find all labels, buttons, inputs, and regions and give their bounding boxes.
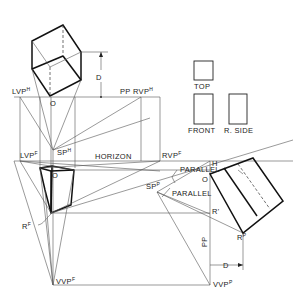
label-o-top: O	[50, 99, 56, 108]
label-r-f: RF	[22, 221, 31, 231]
label-lvp-f: LVPF	[20, 150, 38, 160]
label-o-right: O	[202, 175, 208, 184]
right-side-view	[157, 158, 283, 285]
view-legend	[194, 61, 247, 124]
label-r-prime: R'	[212, 207, 220, 216]
label-view-front: FRONT	[188, 126, 215, 135]
label-horizon: HORIZON	[95, 152, 132, 161]
label-parallel-mid: PARALLEL	[172, 189, 212, 198]
label-pp-right: PP	[200, 236, 209, 247]
parallel-leader-top-right	[238, 170, 243, 174]
label-vvp-f: VVPF	[56, 276, 75, 286]
rf-leader	[38, 214, 51, 225]
label-d-top: D	[96, 73, 102, 82]
label-d-right: D	[223, 261, 229, 270]
label-r-p: RP	[237, 232, 247, 242]
label-view-rside: R. SIDE	[224, 126, 253, 135]
label-rvp-h: RVPH	[133, 86, 153, 96]
label-sp-h: SPH	[57, 147, 72, 157]
label-pp-top: PP	[120, 87, 131, 96]
dimension-d-top	[81, 52, 108, 98]
plan-construction-lines	[20, 69, 150, 285]
perspective-drawing: LVPH O D PP RVPH SPH HORIZON LVPF RVPF O…	[0, 0, 293, 298]
label-h-right: H	[212, 159, 218, 168]
label-lvp-h: LVPH	[12, 86, 31, 96]
label-o-front: O	[52, 171, 58, 180]
plan-view-cube	[32, 25, 81, 96]
label-view-top: TOP	[194, 82, 210, 91]
label-vvp-p: VVPP	[213, 279, 233, 289]
label-rvp-f: RVPF	[162, 150, 182, 160]
label-sp-p: SPP	[146, 181, 161, 191]
